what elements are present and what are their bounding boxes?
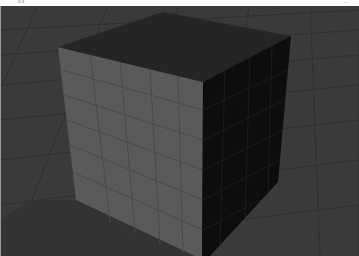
header-left-label: 33 (17, 0, 25, 5)
3d-viewport[interactable] (0, 6, 359, 256)
viewport-left-border (0, 6, 1, 256)
scene-render (0, 6, 359, 256)
header-right-label: … (343, 0, 349, 5)
